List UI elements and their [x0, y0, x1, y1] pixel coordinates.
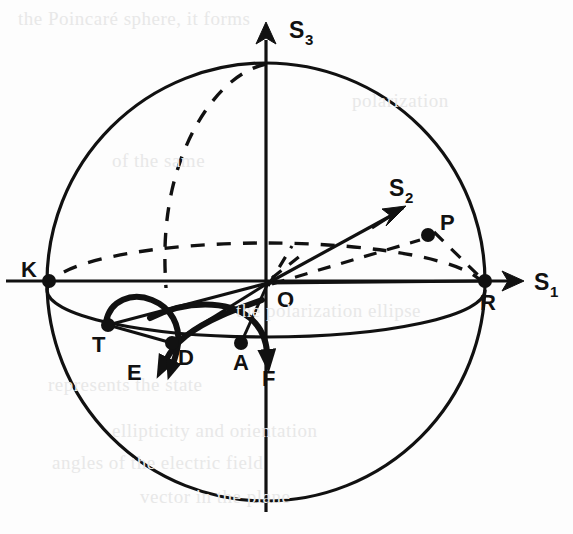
- point-d-label: D: [178, 345, 194, 370]
- point-f-label: F: [262, 366, 275, 391]
- radius-o-to-r: [268, 281, 485, 283]
- sphere-diagram-canvas: S 3 S 1 S 2 O K R P T D A E F: [0, 0, 573, 534]
- s3-axis-label: S: [289, 17, 304, 43]
- s1-axis-label: S: [534, 269, 549, 295]
- dot-r: [478, 274, 492, 288]
- axis-labels: S 3 S 1 S 2: [289, 17, 558, 300]
- point-r-label: R: [480, 290, 496, 315]
- s1-axis-subscript: 1: [550, 283, 558, 300]
- point-e-label: E: [127, 360, 142, 385]
- hidden-meridian-arc: [165, 64, 266, 288]
- s2-axis-subscript: 2: [405, 189, 413, 206]
- poincare-sphere-figure: the Poincaré sphere, it formspolarizatio…: [0, 0, 573, 534]
- dot-k: [42, 274, 56, 288]
- dot-d: [165, 336, 179, 350]
- dot-p: [421, 228, 435, 242]
- dashed-p-to-equator: [434, 232, 478, 275]
- point-a-label: A: [233, 350, 249, 375]
- point-k-label: K: [21, 257, 37, 282]
- dot-t: [101, 318, 115, 332]
- dot-a: [234, 336, 248, 350]
- point-t-label: T: [92, 332, 106, 357]
- point-o-label: O: [277, 287, 294, 312]
- point-p-label: P: [440, 210, 455, 235]
- s2-axis-label: S: [389, 175, 404, 201]
- s3-axis-subscript: 3: [305, 31, 313, 48]
